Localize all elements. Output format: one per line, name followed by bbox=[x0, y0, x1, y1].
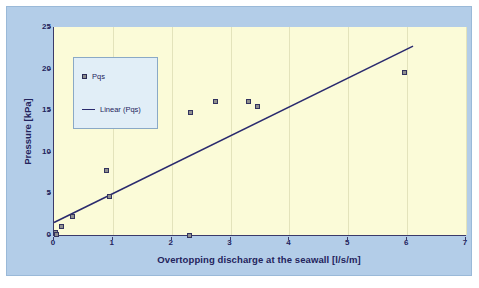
data-point-marker bbox=[107, 194, 112, 199]
data-point-marker bbox=[246, 99, 251, 104]
y-axis-ticks: 0510152025 bbox=[21, 27, 51, 235]
x-axis-tick-mark bbox=[347, 237, 348, 240]
y-axis-tick-mark bbox=[48, 152, 51, 153]
x-axis-tick-mark bbox=[112, 237, 113, 240]
x-axis-tick-mark bbox=[406, 237, 407, 240]
data-point-marker bbox=[104, 168, 109, 173]
x-axis-tick-mark bbox=[230, 237, 231, 240]
x-axis-tick-mark bbox=[171, 237, 172, 240]
x-axis-tick-mark bbox=[53, 237, 54, 240]
legend-item-linear-pqs: Linear (Pqs) bbox=[82, 106, 141, 114]
data-point-marker bbox=[70, 214, 75, 219]
chart-legend: Pqs Linear (Pqs) bbox=[73, 57, 158, 129]
x-axis-title: Overtopping discharge at the seawall [l/… bbox=[53, 254, 465, 265]
data-point-marker bbox=[188, 110, 193, 115]
x-axis-tick-label: 5 bbox=[337, 239, 357, 247]
data-point-marker bbox=[402, 70, 407, 75]
data-point-marker bbox=[59, 224, 64, 229]
x-axis-tick-label: 7 bbox=[455, 239, 475, 247]
gridline-vertical bbox=[466, 27, 467, 235]
x-axis-tick-label: 6 bbox=[396, 239, 416, 247]
legend-label-pqs: Pqs bbox=[92, 73, 105, 81]
line-marker-icon bbox=[82, 109, 95, 110]
square-marker-icon bbox=[82, 74, 87, 79]
data-point-marker bbox=[255, 104, 260, 109]
x-axis-tick-label: 1 bbox=[102, 239, 122, 247]
x-axis-tick-mark bbox=[465, 237, 466, 240]
y-axis-tick-mark bbox=[48, 110, 51, 111]
y-axis-title-wrapper: Pressure [kPa] bbox=[7, 21, 21, 241]
chart-frame: Pressure [kPa] 0510152025 01234567 Overt… bbox=[6, 6, 472, 276]
legend-label-linear-pqs: Linear (Pqs) bbox=[100, 106, 141, 114]
x-axis-tick-label: 4 bbox=[278, 239, 298, 247]
x-axis-tick-mark bbox=[288, 237, 289, 240]
x-axis-tick-label: 3 bbox=[220, 239, 240, 247]
y-axis-tick-mark bbox=[48, 69, 51, 70]
y-axis-tick-mark bbox=[48, 27, 51, 28]
data-point-marker bbox=[213, 99, 218, 104]
y-axis-tick-mark bbox=[48, 235, 51, 236]
y-axis-tick-mark bbox=[48, 193, 51, 194]
x-axis-tick-label: 0 bbox=[43, 239, 63, 247]
x-axis-tick-label: 2 bbox=[161, 239, 181, 247]
legend-item-pqs: Pqs bbox=[82, 73, 105, 81]
x-axis-ticks: 01234567 bbox=[53, 237, 465, 253]
data-point-marker bbox=[54, 232, 59, 237]
chart-screenshot: Pressure [kPa] 0510152025 01234567 Overt… bbox=[0, 0, 479, 288]
